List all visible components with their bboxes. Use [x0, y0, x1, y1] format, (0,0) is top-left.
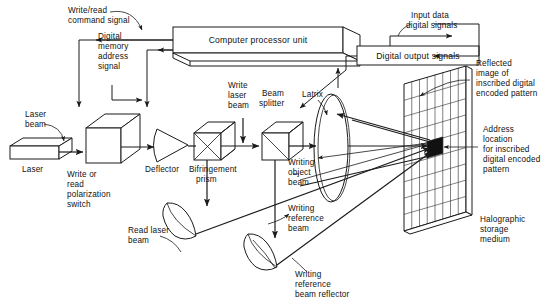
svg-text:for inscribed: for inscribed [483, 145, 530, 154]
svg-text:pattern: pattern [483, 165, 510, 174]
svg-text:Digital: Digital [98, 32, 122, 41]
svg-text:encoded pattern: encoded pattern [476, 89, 538, 98]
svg-text:reference: reference [288, 214, 324, 223]
svg-text:Input data: Input data [411, 11, 449, 20]
svg-text:beam: beam [25, 120, 46, 129]
beam-splitter [262, 122, 303, 160]
cpu-box-label: Computer processor unit [209, 35, 308, 45]
svg-text:location: location [483, 135, 513, 144]
latrix-label: Latrix [302, 90, 323, 99]
writing-reference-beam-reflector [244, 234, 277, 270]
deflector [154, 129, 189, 162]
svg-text:storage: storage [480, 225, 509, 234]
svg-text:Write: Write [228, 81, 248, 90]
svg-text:digital encoded: digital encoded [483, 155, 541, 164]
polarization-switch-cube [86, 114, 140, 163]
svg-text:splitter: splitter [259, 99, 284, 108]
svg-text:memory: memory [98, 42, 129, 51]
bifringement-prism-label: Bifringement prism [189, 165, 237, 184]
digital-output-signals-label: Digital output signals [376, 51, 460, 61]
latrix-lens [314, 94, 350, 202]
svg-text:Write or: Write or [67, 170, 97, 179]
svg-text:beam: beam [128, 236, 149, 245]
svg-text:object: object [288, 168, 311, 177]
address-location-label: Address location for inscribed digital e… [483, 125, 541, 174]
write-read-command-signal-label: Write/read command signal [68, 6, 130, 25]
halographic-storage-medium-label: Halographic storage medium [480, 215, 525, 244]
write-laser-beam-label: Write laser beam [228, 81, 249, 110]
svg-text:laser: laser [228, 91, 247, 100]
svg-text:image of: image of [476, 69, 509, 78]
svg-text:polarization: polarization [67, 190, 111, 199]
bifringement-prism [194, 122, 235, 160]
svg-text:medium: medium [480, 235, 510, 244]
svg-text:Beam: Beam [262, 89, 284, 98]
svg-text:beam: beam [228, 101, 249, 110]
svg-text:prism: prism [196, 175, 217, 184]
holographic-storage-diagram: Computer processor unit Digital output s… [0, 0, 545, 304]
halographic-storage-medium [404, 66, 472, 234]
read-laser-beam-label: Read laser beam [128, 226, 169, 245]
svg-text:digital signals: digital signals [406, 21, 457, 30]
svg-text:Writing: Writing [288, 158, 315, 167]
svg-text:Writing: Writing [288, 204, 315, 213]
polarization-switch-label: Write or read polarization switch [67, 170, 111, 209]
svg-text:Address: Address [483, 125, 514, 134]
svg-text:beam reflector: beam reflector [295, 290, 350, 299]
writing-reference-beam-reflector-label: Writing reference beam reflector [295, 270, 350, 299]
svg-text:switch: switch [67, 200, 91, 209]
writing-object-beam-label: Writing object beam [288, 158, 315, 187]
svg-text:beam: beam [288, 178, 309, 187]
svg-text:beam: beam [288, 224, 309, 233]
svg-text:Writing: Writing [295, 270, 322, 279]
svg-text:reference: reference [295, 280, 331, 289]
digital-memory-address-signal-label: Digital memory address signal [98, 32, 129, 71]
laser-label: Laser [22, 165, 43, 174]
svg-text:address: address [98, 52, 128, 61]
writing-reference-beam-label: Writing reference beam [288, 204, 324, 233]
svg-text:read: read [67, 180, 84, 189]
computer-processor-unit [173, 27, 360, 66]
svg-text:Halographic: Halographic [480, 215, 525, 224]
deflector-label: Deflector [145, 165, 179, 174]
svg-text:Bifringement: Bifringement [189, 165, 237, 174]
beam-splitter-label: Beam splitter [259, 89, 284, 108]
laser-beam-label: Laser beam [25, 110, 46, 129]
svg-text:Read laser: Read laser [128, 226, 169, 235]
svg-text:inscribed digital: inscribed digital [476, 79, 535, 88]
svg-text:signal: signal [98, 62, 120, 71]
diagram-canvas: Computer processor unit Digital output s… [0, 0, 545, 304]
svg-text:Laser: Laser [25, 110, 46, 119]
svg-text:command signal: command signal [68, 16, 130, 25]
laser-source [10, 138, 72, 159]
svg-text:Write/read: Write/read [68, 6, 107, 15]
svg-text:Reflected: Reflected [476, 59, 512, 68]
reflected-image-label: Reflected image of inscribed digital enc… [476, 59, 538, 98]
input-data-digital-signals-label: Input data digital signals [406, 11, 457, 30]
